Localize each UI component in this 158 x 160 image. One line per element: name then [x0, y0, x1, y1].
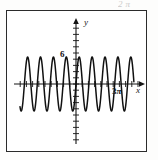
y-tick-label-6: 6: [60, 50, 65, 59]
y-axis-label: y: [84, 18, 88, 27]
pi-symbol: π: [117, 86, 122, 96]
graph-canvas: [0, 0, 158, 160]
x-axis-label: x: [136, 86, 140, 95]
y-axis-arrowhead: [73, 18, 79, 24]
x-tick-label-3pi: 3π: [112, 87, 121, 96]
figure-container: 2π y x 6 3π: [0, 0, 158, 160]
